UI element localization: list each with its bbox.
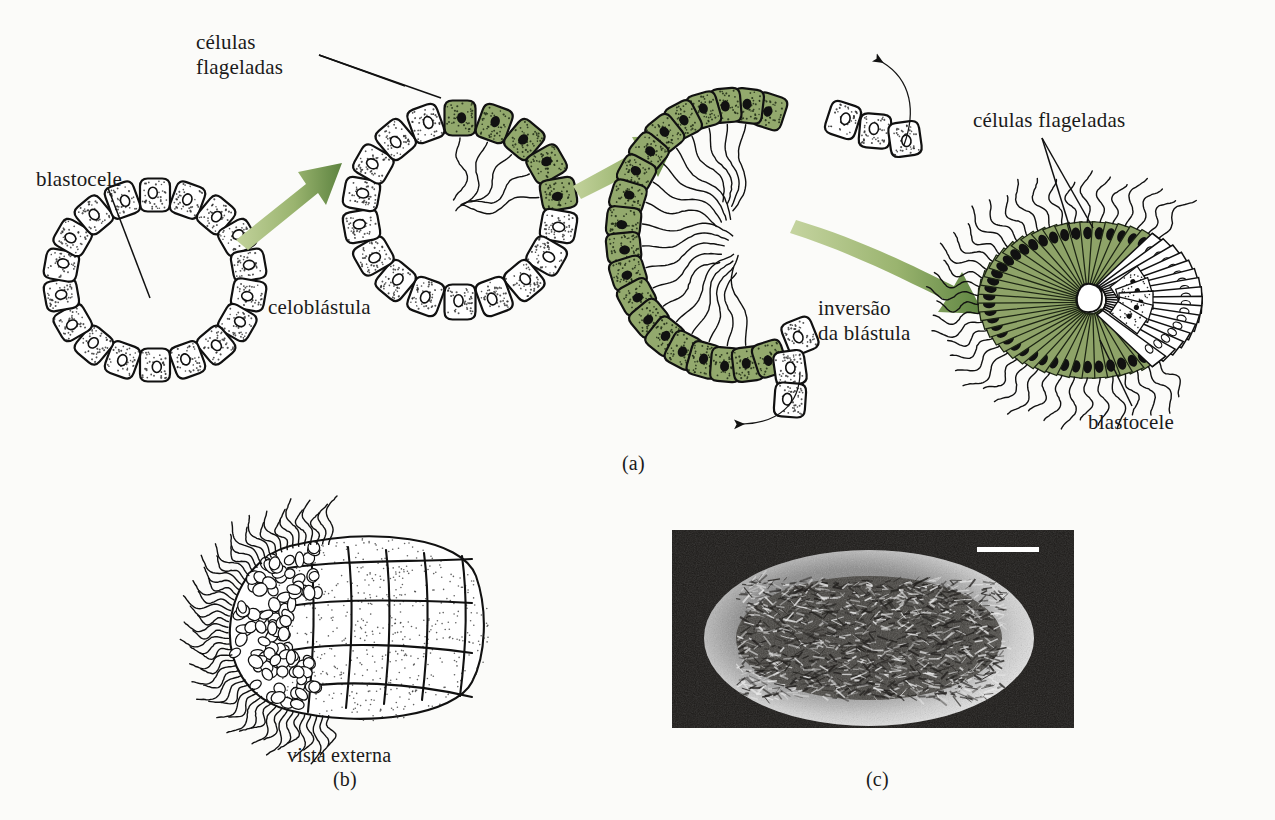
panel-c-micrograph bbox=[672, 530, 1092, 760]
panel-b-illustration bbox=[170, 510, 630, 770]
label-flagellated-cells-right: células flageladas bbox=[973, 108, 1125, 133]
label-coeloblastula: celoblástula bbox=[268, 295, 371, 320]
panel-a-tag: (a) bbox=[622, 452, 645, 476]
label-flagellated-cells-top: células flageladas bbox=[196, 30, 283, 80]
panel-b-tag: (b) bbox=[333, 768, 357, 792]
scale-bar bbox=[977, 547, 1039, 552]
label-inversion: inversão da blástula bbox=[818, 296, 911, 346]
label-blastocoel-left: blastocele bbox=[36, 167, 122, 192]
panel-b-caption: vista externa bbox=[287, 744, 391, 768]
leader-flagellated-cells-top bbox=[319, 55, 441, 98]
panel-c-tag: (c) bbox=[866, 768, 889, 792]
label-blastocoel-right: blastocele bbox=[1088, 410, 1174, 435]
stage-coeloblastula bbox=[43, 179, 268, 382]
stage-blastula-flagellated bbox=[342, 101, 579, 320]
panel-a-illustration bbox=[0, 0, 1275, 500]
arrow-stage1-to-stage2 bbox=[236, 163, 342, 250]
